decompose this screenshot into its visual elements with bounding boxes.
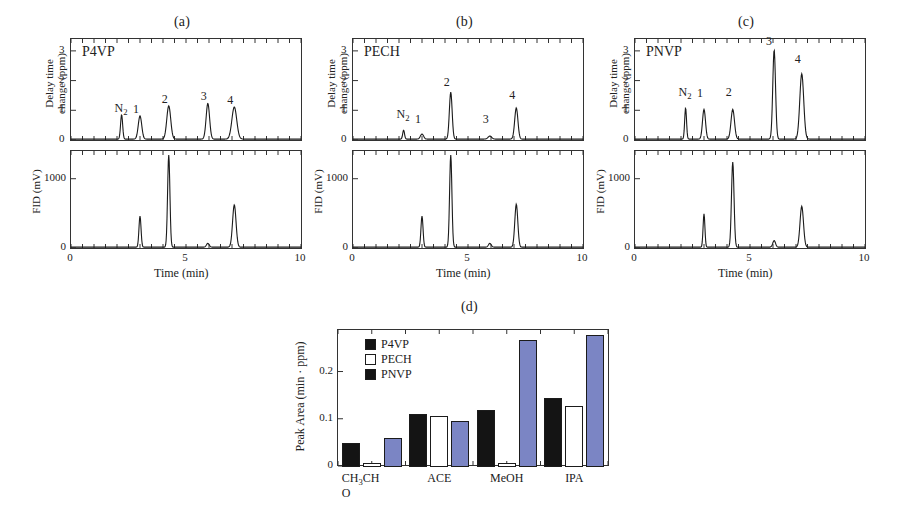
fid-plot-b: [352, 150, 584, 249]
sample-label-a: P4VP: [82, 44, 115, 60]
yaxis-title-delay-line1-c: Delay time: [608, 30, 620, 137]
legend-item-p4vp: P4VP: [365, 337, 412, 352]
bar-p4vp-chcho: [342, 443, 360, 467]
sample-label-b: PECH: [364, 44, 400, 60]
yaxis-title-fid-c: FID (mV): [594, 142, 606, 241]
bar-pech-ipa: [565, 406, 583, 467]
ytick-peak-area-0.2: 0.2: [311, 364, 333, 376]
yaxis-title-peak-area: Peak Area (min · ppm): [293, 323, 308, 470]
xaxis-title-c: Time (min): [718, 266, 773, 281]
bar-pech-ace: [430, 416, 448, 467]
legend-label-p4vp: P4VP: [381, 337, 409, 352]
peak-label-b-2: 2: [444, 75, 450, 90]
panel-caption-d: (d): [461, 299, 478, 315]
peak-label-a-1: 1: [133, 102, 139, 117]
xgroup-label-meoh: MeOH: [471, 472, 543, 485]
bar-pnvp-ipa: [586, 335, 604, 467]
yaxis-title-fid-a: FID (mV): [30, 142, 42, 241]
yaxis-title-delay-b: Delay timechange (ppm): [326, 30, 349, 137]
peak-label-b-n2: N2: [397, 107, 410, 123]
yaxis-title-delay-line2-c: change (ppm): [620, 30, 632, 137]
peak-label-a-n2: N2: [115, 101, 128, 117]
xtick-c-10: 10: [856, 251, 872, 263]
peak-label-c-n2: N2: [679, 85, 692, 101]
xtick-c-5: 5: [741, 251, 757, 263]
yaxis-title-delay-c: Delay timechange (ppm): [608, 30, 631, 137]
xtick-c-0: 0: [626, 251, 642, 263]
peak-label-c-2: 2: [726, 85, 732, 100]
bar-p4vp-ipa: [544, 398, 562, 467]
fid-trace-b: [353, 151, 583, 248]
peak-label-b-1: 1: [415, 112, 421, 127]
xaxis-title-a: Time (min): [154, 266, 209, 281]
legend-swatch-pnvp: [365, 369, 376, 380]
xaxis-title-b: Time (min): [436, 266, 491, 281]
legend-item-pech: PECH: [365, 352, 412, 367]
yaxis-title-delay-line2-a: change (ppm): [56, 30, 68, 137]
bar-p4vp-ace: [409, 414, 427, 467]
legend-swatch-p4vp: [365, 339, 376, 350]
panel-caption-a: (a): [174, 14, 190, 30]
peak-label-a-4: 4: [227, 93, 233, 108]
ytick-peak-area-0: 0: [311, 458, 333, 470]
yaxis-title-delay-a: Delay timechange (ppm): [44, 30, 67, 137]
bar-pech-chcho: [363, 463, 381, 467]
xgroup-label-chcho: CH3CHO: [336, 472, 414, 500]
bar-pech-meoh: [498, 463, 516, 467]
xtick-a-0: 0: [62, 251, 78, 263]
peak-label-a-3: 3: [201, 89, 207, 104]
fid-trace-a: [71, 151, 301, 248]
legend-swatch-pech: [365, 354, 376, 365]
panel-caption-c: (c): [738, 14, 754, 30]
yaxis-title-delay-line1-a: Delay time: [44, 30, 56, 137]
fid-plot-c: [634, 150, 866, 249]
peak-label-c-4: 4: [795, 52, 801, 67]
xtick-a-10: 10: [292, 251, 308, 263]
sample-label-c: PNVP: [646, 44, 682, 60]
bar-pnvp-ace: [451, 421, 469, 467]
bar-chart-legend: P4VPPECHPNVP: [365, 337, 412, 382]
ytick-peak-area-0.1: 0.1: [311, 411, 333, 423]
bar-p4vp-meoh: [477, 410, 495, 467]
yaxis-title-fid-b: FID (mV): [312, 142, 324, 241]
xgroup-label-ace: ACE: [403, 472, 475, 485]
yaxis-title-delay-line2-b: change (ppm): [338, 30, 350, 137]
xgroup-label-ipa: IPA: [538, 472, 610, 485]
yaxis-title-delay-line1-b: Delay time: [326, 30, 338, 137]
legend-label-pnvp: PNVP: [381, 367, 412, 382]
panel-caption-b: (b): [456, 14, 473, 30]
fid-plot-a: [70, 150, 302, 249]
legend-item-pnvp: PNVP: [365, 367, 412, 382]
peak-label-c-3: 3: [766, 34, 772, 49]
xtick-b-5: 5: [459, 251, 475, 263]
legend-label-pech: PECH: [381, 352, 412, 367]
xtick-a-5: 5: [177, 251, 193, 263]
xtick-b-0: 0: [344, 251, 360, 263]
peak-label-a-2: 2: [162, 92, 168, 107]
bar-pnvp-meoh: [519, 340, 537, 467]
bar-pnvp-chcho: [384, 438, 402, 467]
fid-trace-c: [635, 151, 865, 248]
peak-label-b-3: 3: [483, 112, 489, 127]
peak-label-b-4: 4: [509, 88, 515, 103]
xtick-b-10: 10: [574, 251, 590, 263]
peak-label-c-1: 1: [697, 86, 703, 101]
